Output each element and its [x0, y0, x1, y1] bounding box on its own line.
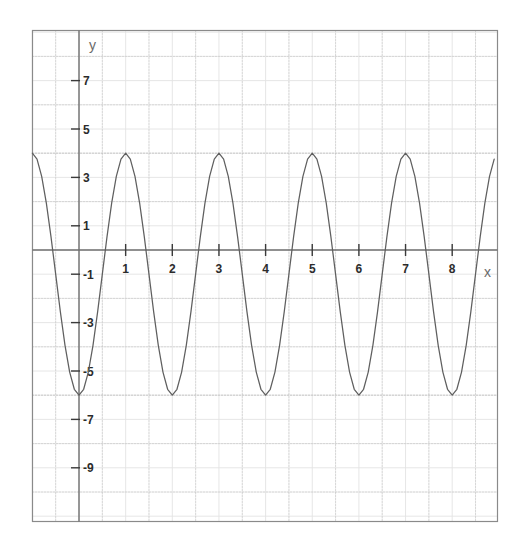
x-tick-label: 4	[262, 262, 269, 276]
x-tick-label: 1	[122, 262, 129, 276]
y-tick-label: 7	[83, 74, 90, 88]
y-tick-label: 1	[83, 219, 90, 233]
x-tick-label: 6	[356, 262, 363, 276]
x-tick-label: 3	[216, 262, 223, 276]
y-tick-label: -1	[83, 268, 94, 282]
y-tick-label: -3	[83, 316, 94, 330]
graph-figure: 123456787531-1-3-5-7-9 y x	[0, 0, 521, 558]
figure-background	[0, 0, 521, 558]
y-axis-label: y	[89, 37, 96, 53]
y-tick-label: -9	[83, 461, 94, 475]
y-tick-label: -7	[83, 413, 94, 427]
x-tick-label: 7	[402, 262, 409, 276]
x-axis-label: x	[484, 264, 491, 280]
x-tick-label: 8	[449, 262, 456, 276]
y-tick-label: 5	[83, 123, 90, 137]
coordinate-plane-svg: 123456787531-1-3-5-7-9 y x	[0, 0, 521, 558]
x-tick-label: 2	[169, 262, 176, 276]
y-tick-label: 3	[83, 171, 90, 185]
x-tick-label: 5	[309, 262, 316, 276]
